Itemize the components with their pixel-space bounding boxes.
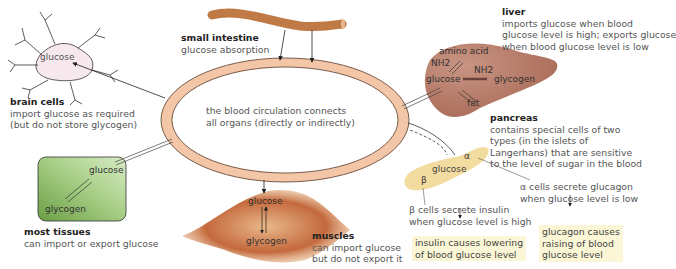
alpha-line-2: when glucose level is low [520, 193, 638, 204]
pancreas-desc-1: contains special cells of two [490, 124, 620, 135]
muscles-desc-1: can import glucose [312, 242, 401, 253]
muscles-desc-2: but do not export it [312, 253, 402, 264]
most-tissues-desc: can import or export glucose [24, 238, 159, 249]
pancreas-label: pancreas contains special cells of two t… [490, 112, 642, 170]
beta-cells-label: β cells secrete insulin when glucose lev… [409, 204, 531, 227]
most-tissues-label: most tissues can import or export glucos… [24, 226, 159, 249]
small-intestine-label: small intestine glucose absorption [181, 32, 269, 55]
tissue-glucose: glucose [89, 165, 124, 175]
small-intestine-title: small intestine [181, 32, 269, 44]
liver-nh2-left: NH2 [431, 58, 450, 68]
pancreas-title: pancreas [490, 112, 642, 124]
alpha-line-1: α cells secrete glucagon [520, 181, 633, 192]
liver-fat: fat [467, 98, 479, 108]
most-tissues-title: most tissues [24, 226, 159, 238]
glucagon-box-3: glucose level [542, 249, 603, 260]
pancreas-desc-2: types (in the islets of [490, 135, 588, 146]
glucagon-box-1: glucagon causes [542, 226, 620, 237]
small-intestine-desc: glucose absorption [181, 44, 269, 55]
alpha-cell-symbol: α [464, 151, 470, 161]
liver-desc-2: glucose level is high; exports glucose [502, 29, 676, 40]
brain-cell-shape [8, 12, 165, 105]
beta-line-2: when glucose level is high [409, 216, 531, 227]
liver-label: liver imports glucose when blood glucose… [502, 6, 676, 52]
glucagon-effect-box: glucagon causes raising of blood glucose… [539, 225, 623, 262]
liver-title: liver [502, 6, 676, 18]
liver-nh2-right: NH2 [474, 65, 493, 75]
liver-glucose: glucose [426, 74, 461, 84]
pancreas-glucose: glucose [432, 164, 467, 174]
pancreas-desc-3: Langerhans) that are sensitive [490, 147, 632, 158]
brain-desc-2: (but do not store glycogen) [10, 119, 137, 130]
muscle-glucose: glucose [248, 196, 283, 206]
tissue-glycogen: glycogen [45, 204, 86, 214]
brain-glucose-label: glucose [40, 52, 75, 62]
liver-desc-1: imports glucose when blood [502, 18, 633, 29]
muscles-title: muscles [312, 230, 402, 242]
center-line2: all organs (directly or indirectly) [206, 117, 355, 128]
beta-cell-symbol: β [421, 175, 427, 185]
liver-amino-acid: amino acid [439, 46, 489, 56]
insulin-box-2: of blood glucose level [415, 249, 516, 260]
glucagon-box-2: raising of blood [542, 238, 614, 249]
beta-line-1: β cells secrete insulin [409, 204, 509, 215]
muscle-glycogen: glycogen [246, 236, 287, 246]
liver-glycogen: glycogen [494, 74, 535, 84]
brain-cells-title: brain cells [10, 96, 137, 108]
center-line1: the blood circulation connects [206, 105, 346, 116]
alpha-cells-label: α cells secrete glucagon when glucose le… [520, 181, 638, 204]
insulin-effect-box: insulin causes lowering of blood glucose… [412, 236, 526, 261]
insulin-box-1: insulin causes lowering [415, 237, 523, 248]
liver-desc-3: when blood glucose level is low [502, 41, 649, 52]
brain-desc-1: import glucose as required [10, 108, 135, 119]
muscles-label: muscles can import glucose but do not ex… [312, 230, 402, 265]
center-caption: the blood circulation connects all organ… [206, 105, 355, 128]
brain-cells-label: brain cells import glucose as required (… [10, 96, 137, 131]
pancreas-desc-4: to the level of sugar in the blood [490, 158, 642, 169]
